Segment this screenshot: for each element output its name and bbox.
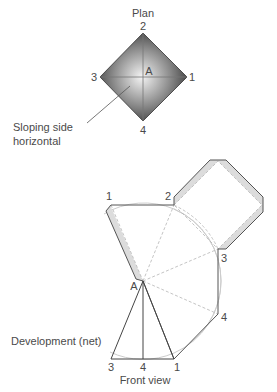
plan-vertex-1: 1 (189, 71, 195, 83)
fold-A-3 (143, 249, 218, 281)
front-view-title: Front view (120, 374, 171, 386)
plan-title: Plan (132, 7, 154, 19)
plan-vertex-3: 3 (91, 71, 97, 83)
net-label-2: 2 (165, 190, 171, 202)
construction-arc-right (174, 209, 221, 343)
glue-tab-base (174, 160, 263, 249)
front-view (111, 281, 174, 359)
annotation-line1: Sloping side (13, 121, 73, 133)
fold-A-2 (143, 205, 174, 281)
plan-vertex-4: 4 (140, 124, 146, 136)
front-label-3: 3 (108, 361, 114, 373)
front-label-4: 4 (140, 361, 146, 373)
net-label-3: 3 (221, 252, 227, 264)
plan-view (87, 33, 187, 123)
front-label-1: 1 (174, 361, 180, 373)
fold-base-square (174, 161, 262, 249)
fold-1-A (111, 205, 143, 281)
net-label-4: 4 (221, 311, 227, 323)
development-net (104, 160, 263, 359)
net-label-1: 1 (106, 190, 112, 202)
plan-apex-label: A (145, 65, 153, 77)
annotation-line2: horizontal (13, 135, 61, 147)
net-apex-label: A (130, 280, 138, 292)
pyramid-drawing: Plan 2 3 1 4 A Sloping side horizontal 1… (0, 0, 277, 392)
development-title: Development (net) (11, 335, 102, 347)
plan-vertex-2: 2 (140, 20, 146, 32)
glue-tab-left (106, 205, 143, 281)
annotation-leader-line (87, 86, 130, 123)
